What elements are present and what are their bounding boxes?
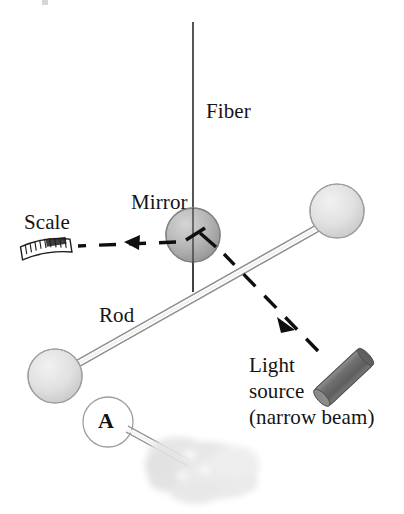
figure-canvas: [0, 0, 404, 514]
label-mirror: Mirror: [131, 189, 188, 215]
small-sphere-left: [28, 349, 82, 403]
scale-ruler: [20, 235, 72, 260]
cavendish-balance-figure: Fiber Mirror Scale Rod Light source (nar…: [0, 0, 404, 514]
scan-speck: [42, 0, 48, 5]
label-rod: Rod: [99, 302, 134, 328]
incident-beam: [200, 233, 318, 351]
label-source: source: [249, 378, 304, 404]
small-sphere-right: [310, 184, 364, 238]
light-source-cylinder: [311, 346, 376, 409]
label-scale: Scale: [24, 209, 70, 235]
hand-illustration: [145, 437, 259, 504]
label-sphere-a: A: [98, 408, 114, 434]
label-narrow-beam: (narrow beam): [249, 404, 375, 430]
label-fiber: Fiber: [206, 98, 251, 124]
label-light: Light: [249, 352, 295, 378]
reflected-beam-arrowhead: [124, 235, 140, 250]
